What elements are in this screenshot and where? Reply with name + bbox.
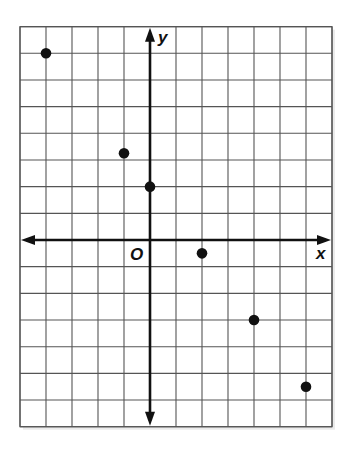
coordinate-plane bbox=[0, 0, 349, 452]
data-point bbox=[249, 315, 260, 326]
y-axis-label: y bbox=[158, 29, 167, 46]
data-point bbox=[301, 381, 312, 392]
origin-label: O bbox=[130, 246, 143, 263]
data-point bbox=[145, 181, 156, 192]
data-point bbox=[119, 148, 130, 159]
data-point bbox=[197, 248, 208, 259]
data-point bbox=[41, 48, 52, 59]
frame-shadow bbox=[20, 27, 335, 430]
x-axis-label: x bbox=[316, 245, 325, 262]
